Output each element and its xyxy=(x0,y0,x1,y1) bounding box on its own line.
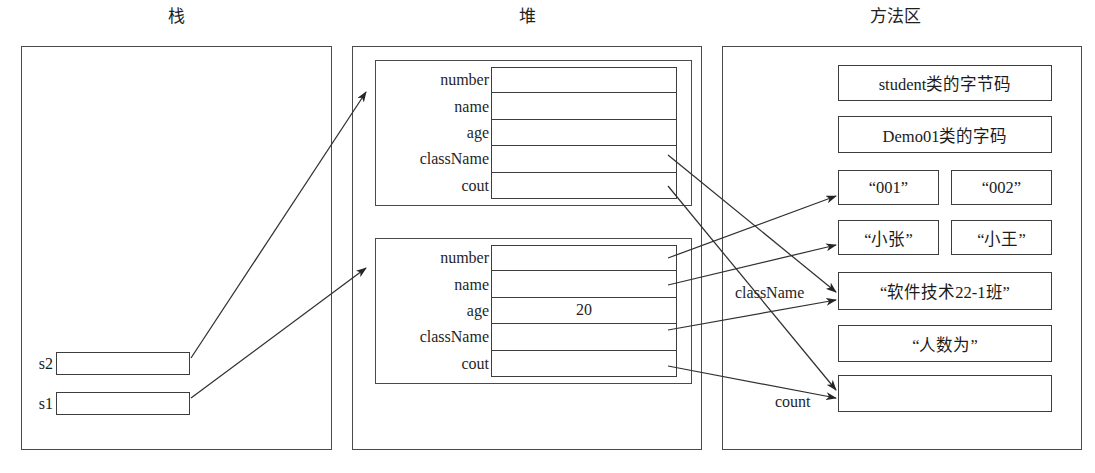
panel-title-heap: 堆 xyxy=(487,8,567,25)
heap-object-1-row-number[interactable]: number xyxy=(376,67,691,93)
stack-variable-s2-box[interactable] xyxy=(56,352,190,375)
panel-title-method-area: 方法区 xyxy=(855,8,935,25)
stack-variable-s2[interactable]: s2 xyxy=(56,352,190,375)
panel-title-stack: 栈 xyxy=(136,8,216,25)
field-label-age: age xyxy=(467,302,489,320)
heap-object-2-row-age[interactable]: age 20 xyxy=(376,298,691,324)
method-area-entry-empty-slot[interactable] xyxy=(838,375,1052,412)
field-label-name: name xyxy=(454,98,489,116)
field-value-classname[interactable] xyxy=(491,146,677,172)
heap-object-2-row-cout[interactable]: cout xyxy=(376,351,691,377)
method-area-entry-string-xiaozhang[interactable]: “小张” xyxy=(838,220,939,255)
heap-object-1-row-classname[interactable]: className xyxy=(376,146,691,172)
method-area-entry-string-002[interactable]: “002” xyxy=(951,170,1052,205)
method-area-entry-student-bytecode[interactable]: student类的字节码 xyxy=(838,65,1052,101)
stack-panel xyxy=(21,46,332,450)
method-area-entry-demo01-bytecode[interactable]: Demo01类的字码 xyxy=(838,116,1052,153)
field-value-name[interactable] xyxy=(491,271,677,297)
method-area-entry-string-classname[interactable]: “软件技术22-1班” xyxy=(838,272,1052,310)
field-value-classname[interactable] xyxy=(491,324,677,350)
field-value-cout[interactable] xyxy=(491,173,677,199)
field-value-age[interactable]: 20 xyxy=(491,298,677,324)
field-value-name[interactable] xyxy=(491,93,677,119)
field-label-number: number xyxy=(440,71,489,89)
field-label-age: age xyxy=(467,124,489,142)
stack-variable-s1-box[interactable] xyxy=(56,392,190,415)
heap-object-1-row-cout[interactable]: cout xyxy=(376,173,691,199)
field-label-classname: className xyxy=(420,150,489,168)
stack-variable-s1[interactable]: s1 xyxy=(56,392,190,415)
field-value-number[interactable] xyxy=(491,245,677,271)
heap-object-1[interactable]: number name age className cout xyxy=(375,60,692,206)
method-area-entry-string-xiaowang[interactable]: “小王” xyxy=(951,220,1052,255)
jvm-memory-diagram: 栈 堆 方法区 s2 s1 number name age xyxy=(0,0,1095,473)
edge-label-count: count xyxy=(775,393,811,411)
field-label-number: number xyxy=(440,249,489,267)
field-label-name: name xyxy=(454,276,489,294)
field-value-number[interactable] xyxy=(491,67,677,93)
heap-object-2-row-classname[interactable]: className xyxy=(376,324,691,350)
method-area-entry-string-count-text[interactable]: “人数为” xyxy=(838,325,1052,362)
heap-object-1-row-age[interactable]: age xyxy=(376,120,691,146)
field-label-classname: className xyxy=(420,328,489,346)
heap-object-1-row-name[interactable]: name xyxy=(376,93,691,119)
heap-object-2-row-number[interactable]: number xyxy=(376,245,691,271)
field-label-cout: cout xyxy=(461,355,489,373)
field-value-cout[interactable] xyxy=(491,351,677,377)
stack-variable-s2-label: s2 xyxy=(39,355,56,373)
heap-object-2[interactable]: number name age 20 className cout xyxy=(375,238,692,384)
heap-object-2-row-name[interactable]: name xyxy=(376,271,691,297)
heap-object-1-fields: number name age className cout xyxy=(376,61,691,205)
field-label-cout: cout xyxy=(461,177,489,195)
stack-variable-s1-label: s1 xyxy=(39,395,56,413)
heap-object-2-fields: number name age 20 className cout xyxy=(376,239,691,383)
edge-label-classname: className xyxy=(735,284,804,302)
method-area-entry-string-001[interactable]: “001” xyxy=(838,170,939,205)
field-value-age[interactable] xyxy=(491,120,677,146)
